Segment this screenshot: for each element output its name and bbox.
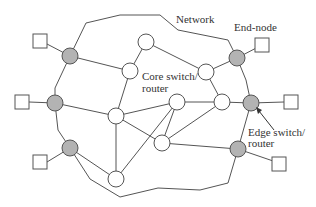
core-switch-node bbox=[122, 63, 138, 79]
core-switch-label-2: router bbox=[142, 82, 169, 94]
edge-switch-node bbox=[229, 50, 245, 66]
core-switch-node bbox=[108, 171, 124, 187]
core-switch-label: Core switch/ bbox=[142, 70, 199, 82]
end-node-square bbox=[255, 38, 269, 52]
edge-switch-node bbox=[62, 140, 78, 156]
edge-switch-node bbox=[230, 141, 246, 157]
core-switch-node bbox=[198, 64, 214, 80]
end-node-square bbox=[15, 95, 29, 109]
end-node-square bbox=[272, 157, 286, 171]
edge-switch-node bbox=[62, 48, 78, 64]
edge-switch-label-2: router bbox=[248, 137, 275, 149]
edge-switch-node bbox=[47, 95, 63, 111]
core-switch-node bbox=[214, 94, 230, 110]
core-switch-node bbox=[108, 108, 124, 124]
network-boundary-bottom bbox=[70, 148, 238, 197]
network-label: Network bbox=[176, 13, 215, 25]
end-node-label: End-node bbox=[234, 21, 277, 33]
network-diagram: Network End-node Core switch/ router Edg… bbox=[0, 0, 316, 207]
end-node-square bbox=[33, 155, 47, 169]
core-switch-node bbox=[138, 34, 154, 50]
end-node-square bbox=[33, 34, 47, 48]
core-switch-node bbox=[154, 135, 170, 151]
end-node-square bbox=[284, 95, 298, 109]
core-links bbox=[116, 42, 222, 179]
core-switch-node bbox=[169, 94, 185, 110]
